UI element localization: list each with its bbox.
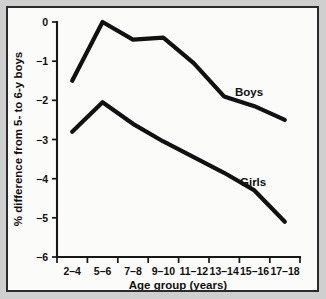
x-tick-label-15-16: 15–16 — [240, 265, 269, 277]
y-tick-label-3: −3 — [36, 134, 48, 146]
x-tick-label-2-4: 2–4 — [63, 265, 81, 277]
y-tick-label-1: −1 — [36, 55, 48, 67]
series-annotation-girls: Girls — [240, 176, 266, 188]
chart-plate: 0 −1 −2 −3 −4 −5 −6 2–4 5–6 7–8 — [6, 6, 319, 292]
x-tick-label-13-14: 13–14 — [210, 265, 239, 277]
y-tick-label-0: 0 — [42, 16, 48, 28]
y-tick-label-2: −2 — [36, 94, 48, 106]
y-axis-title: % difference from 5- to 6-y boys — [12, 52, 24, 226]
line-chart: 0 −1 −2 −3 −4 −5 −6 2–4 5–6 7–8 — [8, 8, 317, 290]
figure-container: 0 −1 −2 −3 −4 −5 −6 2–4 5–6 7–8 — [0, 0, 326, 299]
y-tick-label-4: −4 — [36, 173, 48, 185]
x-tick-label-11-12: 11–12 — [179, 265, 208, 277]
x-tick-label-7-8: 7–8 — [124, 265, 142, 277]
series-annotation-boys: Boys — [235, 86, 263, 98]
x-tick-label-17-18: 17–18 — [270, 265, 299, 277]
series-line-girls — [72, 102, 285, 221]
y-tick-label-5: −5 — [36, 212, 48, 224]
x-tick-label-5-6: 5–6 — [94, 265, 112, 277]
x-tick-label-9-10: 9–10 — [152, 265, 176, 277]
x-axis-title: Age group (years) — [129, 279, 228, 290]
y-tick-label-6: −6 — [36, 251, 48, 263]
